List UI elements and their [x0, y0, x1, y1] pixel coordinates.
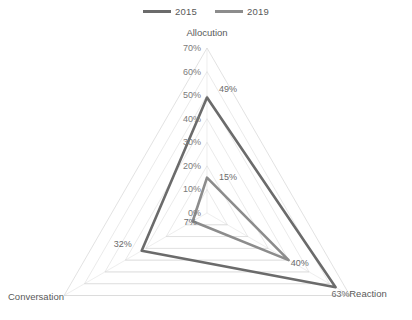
radial-tick-50: 50%	[183, 90, 201, 100]
data-label-2015-conversation: 32%	[114, 239, 132, 249]
legend-item-2019[interactable]: 2019	[215, 6, 269, 17]
radial-tick-60: 60%	[183, 67, 201, 77]
legend-swatch-2015	[143, 10, 171, 13]
chart-legend: 2015 2019	[0, 6, 412, 17]
radar-plot-area: 0%10%20%30%40%50%60%70% 49%63%32%15%40%7…	[0, 0, 412, 320]
legend-label-2015: 2015	[175, 6, 197, 17]
radar-chart: 2015 2019 0%10%20%30%40%50%60%70% 49%63%…	[0, 0, 412, 320]
data-label-2019-reaction: 40%	[291, 258, 309, 268]
radial-tick-40: 40%	[183, 114, 201, 124]
radial-tick-70: 70%	[183, 43, 201, 53]
legend-swatch-2019	[215, 10, 243, 13]
legend-label-2019: 2019	[247, 6, 269, 17]
radial-tick-20: 20%	[183, 161, 201, 171]
axis-label-allocution: Allocution	[186, 27, 227, 38]
radial-tick-10: 10%	[183, 184, 201, 194]
legend-item-2015[interactable]: 2015	[143, 6, 197, 17]
data-label-2019-allocution: 15%	[219, 172, 237, 182]
data-label-2015-reaction: 63%	[332, 289, 350, 299]
data-label-2019-conversation: 7%	[184, 217, 197, 227]
axis-label-conversation: Conversation	[8, 291, 64, 302]
radial-tick-30: 30%	[183, 137, 201, 147]
data-label-2015-allocution: 49%	[219, 84, 237, 94]
axis-label-reaction: Reaction	[349, 288, 387, 299]
